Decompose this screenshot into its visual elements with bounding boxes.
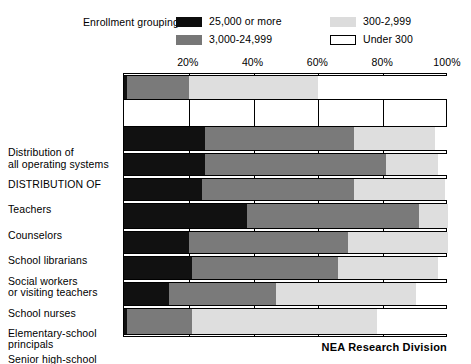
stacked-bar [124, 178, 446, 201]
legend-item-label: Under 300 [363, 33, 413, 45]
stacked-bar [124, 126, 446, 151]
bar-segment [435, 127, 448, 150]
bar-segment [247, 204, 419, 228]
bar-segment [386, 154, 438, 175]
source-credit: NEA Research Division [0, 341, 447, 353]
bar-segment [338, 257, 438, 279]
bar-row [124, 308, 446, 335]
y-axis-label: Teachers [8, 204, 114, 216]
bar-segment [348, 232, 448, 253]
bar-segment [124, 283, 169, 305]
bar-segment [124, 127, 205, 150]
stacked-bar [124, 308, 446, 335]
bar-segment [276, 283, 415, 305]
y-axis-label: School librarians [8, 255, 114, 267]
bar-segment [192, 309, 377, 334]
y-axis-label: Senior high-school principals [8, 354, 114, 364]
bar-row [124, 75, 446, 100]
legend: Enrollment grouping 25,000 or more 3,000… [0, 6, 471, 48]
bar-segment [124, 179, 202, 200]
x-axis-tick: 20% [177, 56, 198, 68]
stacked-bar [124, 231, 446, 254]
bar-segment [205, 154, 386, 175]
bar-segment [445, 179, 448, 200]
stacked-bar [124, 153, 446, 176]
legend-item-label: 300-2,999 [363, 15, 411, 27]
legend-swatch-icon [176, 35, 202, 45]
bar-segment [318, 76, 448, 99]
bar-segment [192, 257, 338, 279]
x-axis-tick: 60% [307, 56, 328, 68]
bar-segment [127, 76, 189, 99]
bar-segment [354, 179, 445, 200]
chart-page: Enrollment grouping 25,000 or more 3,000… [0, 0, 471, 364]
bar-segment [124, 232, 189, 253]
y-axis-label: Distribution of all operating systems [8, 147, 114, 170]
bar-segment [127, 309, 192, 334]
legend-swatch-icon [330, 17, 356, 27]
bar-segment [189, 76, 319, 99]
bar-row [124, 153, 446, 176]
bar-row [124, 203, 446, 229]
stacked-bar [124, 203, 446, 229]
stacked-bar [124, 256, 446, 280]
x-axis-tick: 40% [242, 56, 263, 68]
bar-segment [124, 204, 247, 228]
bar-row [124, 282, 446, 306]
bar-segment [419, 204, 448, 228]
y-axis-label: Counselors [8, 230, 114, 242]
bar-row [124, 256, 446, 280]
bar-segment [438, 257, 448, 279]
y-axis-label: School nurses [8, 308, 114, 320]
legend-item-label: 3,000-24,999 [209, 33, 272, 45]
x-axis-tick-labels: 20%40%60%80%100% [123, 56, 447, 70]
legend-item-label: 25,000 or more [209, 15, 282, 27]
bar-segment [202, 179, 354, 200]
bar-segment [205, 127, 354, 150]
bar-segment [416, 283, 448, 305]
y-axis-label: Social workers or visiting teachers [8, 276, 114, 299]
y-axis-label: DISTRIBUTION OF [8, 179, 114, 191]
bar-row [124, 126, 446, 151]
bar-segment [189, 232, 348, 253]
bar-segment [124, 257, 192, 279]
stacked-bar [124, 282, 446, 306]
bar-segment [377, 309, 448, 334]
legend-title: Enrollment grouping [83, 16, 179, 28]
bar-segment [124, 154, 205, 175]
bar-row [124, 231, 446, 254]
stacked-bar [124, 75, 446, 100]
bar-segment [169, 283, 276, 305]
x-axis-tick: 80% [372, 56, 393, 68]
y-axis-category-labels: Distribution of all operating systemsDIS… [0, 73, 123, 337]
legend-swatch-icon [330, 35, 356, 45]
plot-area [123, 73, 447, 337]
bar-row [124, 178, 446, 201]
legend-swatch-icon [176, 17, 202, 27]
bar-segment [354, 127, 435, 150]
bar-segment [438, 154, 448, 175]
x-axis-tick: 100% [433, 56, 460, 68]
